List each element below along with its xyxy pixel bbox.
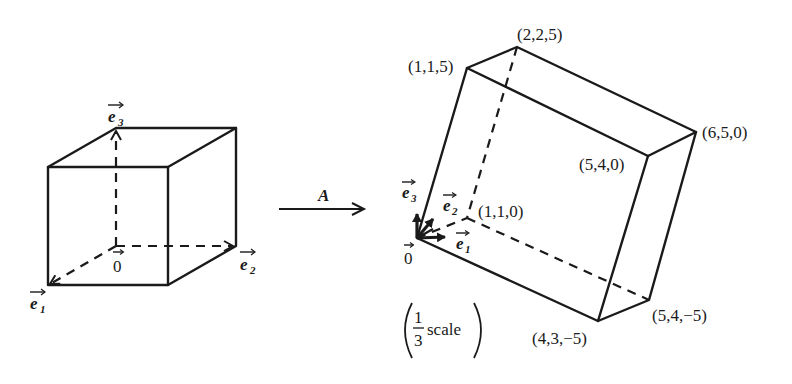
left-e2-label: e 2 xyxy=(240,249,256,276)
scale-note: 1 3 scale xyxy=(405,303,481,358)
matrix-a-label: A xyxy=(317,186,329,205)
svg-text:e: e xyxy=(30,294,38,313)
cube-right-face xyxy=(168,128,236,285)
edge-540-43m5 xyxy=(598,156,648,321)
svg-text:3: 3 xyxy=(410,192,417,204)
vertex-label-54m5: (5,4,−5) xyxy=(652,306,707,325)
svg-text:1: 1 xyxy=(40,303,46,315)
vertex-label-225: (2,2,5) xyxy=(517,25,562,44)
vertex-label-43m5: (4,3,−5) xyxy=(532,329,587,348)
e1-vector-dashed xyxy=(50,246,116,284)
svg-text:2: 2 xyxy=(451,205,458,217)
svg-text:1: 1 xyxy=(465,243,471,255)
parallelepiped-outline xyxy=(417,47,696,321)
svg-text:e: e xyxy=(240,255,248,274)
right-e1-label: e 1 xyxy=(456,231,471,256)
left-origin-label: 0 xyxy=(113,250,124,277)
edge-115-540 xyxy=(467,68,648,156)
svg-text:0: 0 xyxy=(113,257,122,276)
scale-fraction-denominator: 3 xyxy=(414,331,423,350)
right-e2-label: e 2 xyxy=(443,193,458,218)
scale-fraction-numerator: 1 xyxy=(414,308,423,327)
svg-text:0: 0 xyxy=(404,249,413,268)
svg-text:3: 3 xyxy=(117,116,124,128)
svg-text:e: e xyxy=(402,183,410,202)
svg-text:e: e xyxy=(456,234,464,253)
right-origin-label: 0 xyxy=(404,243,414,269)
left-e1-label: e 1 xyxy=(30,289,46,315)
svg-text:2: 2 xyxy=(249,264,256,276)
left-e3-label: e 3 xyxy=(108,102,124,128)
svg-text:e: e xyxy=(443,196,451,215)
transformation-arrow: A xyxy=(279,186,364,215)
right-e3-label: e 3 xyxy=(402,180,417,205)
image-parallelepiped xyxy=(417,47,696,321)
svg-text:e: e xyxy=(108,107,116,126)
edge-540-650 xyxy=(648,132,696,156)
hidden-edge-110-54m5 xyxy=(467,218,649,300)
cube-front-face xyxy=(48,167,168,285)
vertex-label-110: (1,1,0) xyxy=(478,202,523,221)
cube-top-face xyxy=(48,128,236,167)
linear-transformation-figure: e 3 e 2 e 1 0 A xyxy=(0,0,792,384)
vertex-label-115: (1,1,5) xyxy=(408,57,453,76)
vertex-label-540: (5,4,0) xyxy=(579,155,624,174)
unit-cube xyxy=(48,128,236,285)
image-e1-arrow xyxy=(417,237,445,238)
scale-word: scale xyxy=(427,320,461,339)
vertex-label-650: (6,5,0) xyxy=(702,123,747,142)
